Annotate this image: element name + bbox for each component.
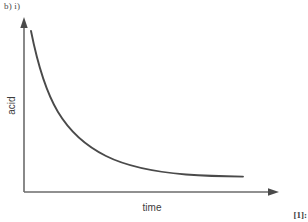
y-axis-label: acid: [6, 86, 17, 126]
chart-canvas: [0, 0, 308, 222]
x-axis-label: time: [132, 202, 172, 213]
x-axis-arrowhead-icon: [268, 188, 279, 195]
acid-decay-curve: [31, 31, 243, 177]
y-axis-arrowhead-icon: [20, 17, 27, 28]
acid-vs-time-chart: acid time: [0, 0, 308, 222]
marks-allocation-label: [1]:: [294, 210, 308, 220]
worksheet-figure-page: b) i) acid time [1]:: [0, 0, 308, 222]
